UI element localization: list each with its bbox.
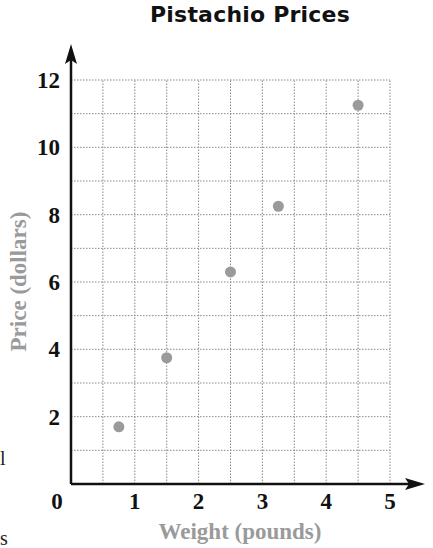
cropped-text-fragment: s xyxy=(0,528,8,548)
x-tick-label: 2 xyxy=(184,490,214,513)
y-tick-label: 12 xyxy=(20,69,60,92)
data-point xyxy=(161,352,172,363)
x-tick-label: 4 xyxy=(311,490,341,513)
x-tick-label: 1 xyxy=(120,490,150,513)
plot-area xyxy=(0,0,433,548)
x-tick-label: 3 xyxy=(247,490,277,513)
data-point xyxy=(225,266,236,277)
data-point xyxy=(273,201,284,212)
data-point xyxy=(113,421,124,432)
x-tick-label: 5 xyxy=(375,490,405,513)
origin-label: 0 xyxy=(42,490,72,513)
y-tick-label: 10 xyxy=(20,136,60,159)
x-axis-label: Weight (pounds) xyxy=(140,520,340,543)
data-point xyxy=(353,100,364,111)
y-axis-label: Price (dollars) xyxy=(7,192,30,372)
cropped-text-fragment: l xyxy=(0,448,6,468)
y-tick-label: 2 xyxy=(20,406,60,429)
